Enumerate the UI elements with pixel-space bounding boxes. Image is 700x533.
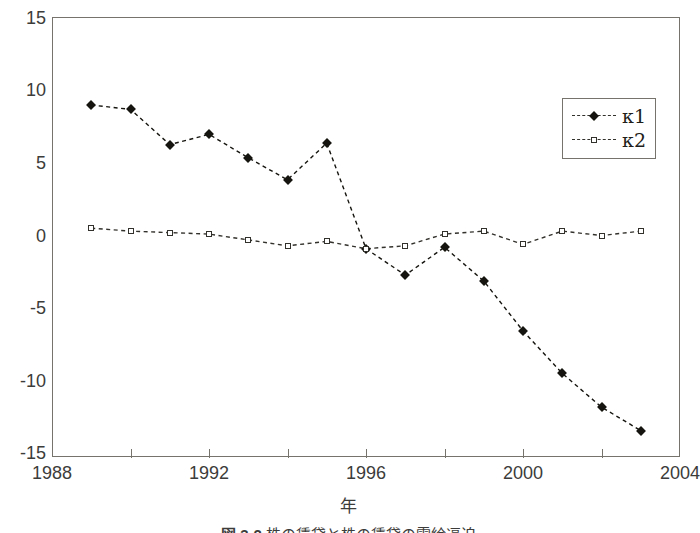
data-point-marker	[285, 243, 291, 249]
data-point-marker	[167, 230, 173, 236]
data-point-marker	[128, 228, 134, 234]
data-point-marker	[559, 228, 565, 234]
data-point-marker	[243, 153, 253, 163]
data-point-marker	[479, 276, 489, 286]
data-point-marker	[245, 237, 251, 243]
data-point-marker	[126, 104, 136, 114]
legend-marker-filled-diamond-icon	[572, 110, 616, 122]
data-point-marker	[206, 231, 212, 237]
figure-caption-text: 株の賃貸と株の賃貸の需給逼迫	[266, 526, 476, 533]
figure-caption: 図 3-2 株の賃貸と株の賃貸の需給逼迫	[0, 523, 697, 533]
data-point-marker	[638, 228, 644, 234]
data-point-marker	[636, 426, 646, 436]
data-point-marker	[324, 238, 330, 244]
data-point-marker	[520, 241, 526, 247]
legend-entry-k1: κ1	[572, 104, 646, 128]
data-point-marker	[363, 246, 369, 252]
data-point-marker	[88, 225, 94, 231]
data-point-marker	[86, 100, 96, 110]
legend-entry-label: κ2	[622, 131, 646, 150]
data-point-marker	[481, 228, 487, 234]
legend-marker-open-square-icon	[572, 134, 616, 146]
data-point-marker	[400, 270, 410, 280]
data-point-marker	[322, 138, 332, 148]
data-point-marker	[440, 242, 450, 252]
figure-caption-number: 図 3-2	[221, 526, 262, 533]
data-point-marker	[518, 326, 528, 336]
data-point-marker	[597, 402, 607, 412]
legend-entry-label: κ1	[622, 107, 646, 126]
data-point-marker	[599, 233, 605, 239]
data-point-marker	[283, 175, 293, 185]
data-point-marker	[165, 140, 175, 150]
legend-entry-k2: κ2	[572, 128, 646, 152]
legend: κ1 κ2	[562, 98, 656, 159]
data-point-marker	[204, 129, 214, 139]
data-point-marker	[402, 243, 408, 249]
data-point-marker	[442, 231, 448, 237]
data-point-marker	[557, 368, 567, 378]
